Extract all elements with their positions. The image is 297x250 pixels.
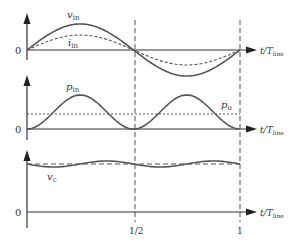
v-in-label: vin: [67, 9, 80, 22]
p-in-curve: [27, 95, 240, 129]
waveform-canvas: 0 vin iin t/Tline 0 pin po t/Tline 0 vc …: [0, 0, 297, 250]
y-axis-1-arrow-icon: [24, 13, 31, 24]
x-axis-3-label: t/Tline: [260, 208, 284, 219]
x-axis-2-arrow-icon: [246, 126, 257, 133]
origin-label-2: 0: [15, 124, 21, 135]
panel-2: 0 pin po t/Tline: [15, 75, 284, 140]
y-axis-2-arrow-icon: [24, 75, 31, 86]
v-c-label: vc: [47, 171, 57, 184]
p-in-label: pin: [66, 81, 80, 94]
x-axis-1-label: t/Tline: [260, 46, 284, 57]
panel-3: 0 vc t/Tline 1/2 1: [15, 150, 284, 236]
x-axis-3-arrow-icon: [246, 209, 257, 216]
origin-label-1: 0: [15, 45, 21, 56]
panel-1: 0 vin iin t/Tline: [15, 9, 284, 76]
tick-label-one: 1: [237, 226, 243, 236]
waveform-figure: 0 vin iin t/Tline 0 pin po t/Tline 0 vc …: [0, 0, 297, 250]
x-axis-1-arrow-icon: [246, 47, 257, 54]
y-axis-3-arrow-icon: [24, 150, 31, 161]
v-c-curve: [27, 161, 240, 167]
x-axis-2-label: t/Tline: [260, 125, 284, 136]
tick-label-half: 1/2: [129, 226, 143, 236]
origin-label-3: 0: [15, 207, 21, 218]
i-in-label: iin: [68, 37, 78, 50]
p-o-label: po: [221, 99, 232, 112]
